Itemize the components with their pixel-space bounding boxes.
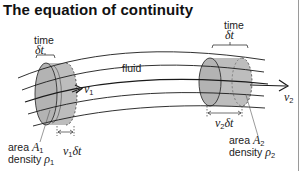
delta-t-label-right: δt [225, 30, 234, 41]
right-border [298, 0, 299, 171]
v2-arrow [250, 80, 288, 91]
v1-delta-t-label: v1δt [63, 146, 81, 160]
delta-t-label-left: δt [35, 45, 44, 56]
v2-label: v2 [284, 92, 294, 106]
v1dt-dimension [57, 126, 74, 136]
right-time-brace [212, 42, 248, 48]
left-fluid-element [35, 63, 77, 125]
v1-label: v1 [84, 84, 94, 98]
v2-delta-t-label: v2δt [215, 118, 233, 132]
fluid-label: fluid [122, 63, 141, 74]
density-rho1-label: density ρ1 [8, 154, 54, 168]
area2-leader [246, 95, 258, 136]
density-rho2-label: density ρ2 [229, 147, 275, 161]
